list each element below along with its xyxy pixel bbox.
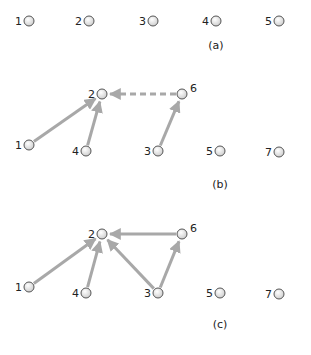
node-7 — [274, 147, 284, 157]
node-label-7: 7 — [265, 146, 272, 159]
node-label-1: 1 — [15, 281, 22, 294]
node-4 — [81, 288, 91, 298]
edge-3-to-2-arrow — [108, 240, 154, 289]
panel-a: 12345(a) — [15, 15, 284, 52]
node-3 — [153, 146, 163, 156]
node-label-7: 7 — [265, 288, 272, 301]
node-2 — [84, 16, 94, 26]
node-label-4: 4 — [202, 15, 209, 28]
node-2 — [97, 229, 107, 239]
graph-diagram: 12345(a)2614357(b)2614357(c) — [0, 0, 311, 355]
node-label-6: 6 — [190, 82, 197, 95]
node-1 — [24, 282, 34, 292]
edge-4-to-2-arrow — [88, 242, 100, 287]
node-4 — [81, 146, 91, 156]
edge-4-to-2-arrow — [88, 102, 100, 146]
node-2 — [97, 89, 107, 99]
node-label-6: 6 — [190, 222, 197, 235]
node-6 — [177, 89, 187, 99]
panel-caption: (b) — [212, 178, 228, 191]
edge-3-to-6-arrow — [160, 241, 179, 287]
node-label-5: 5 — [265, 15, 272, 28]
edge-1-to-2-arrow — [34, 99, 96, 142]
node-label-3: 3 — [144, 145, 151, 158]
node-6 — [177, 229, 187, 239]
panel-b: 2614357(b) — [15, 82, 284, 191]
node-label-3: 3 — [139, 15, 146, 28]
node-5 — [274, 16, 284, 26]
node-1 — [24, 16, 34, 26]
node-label-4: 4 — [72, 287, 79, 300]
node-3 — [153, 288, 163, 298]
node-label-1: 1 — [15, 15, 22, 28]
node-3 — [148, 16, 158, 26]
edge-3-to-6-arrow — [160, 101, 179, 145]
node-label-5: 5 — [206, 145, 213, 158]
node-label-3: 3 — [144, 287, 151, 300]
node-5 — [215, 288, 225, 298]
node-label-2: 2 — [88, 88, 95, 101]
panel-caption: (c) — [213, 318, 228, 331]
node-label-1: 1 — [15, 139, 22, 152]
node-4 — [211, 16, 221, 26]
edge-1-to-2-arrow — [34, 239, 96, 284]
node-label-4: 4 — [72, 145, 79, 158]
panel-caption: (a) — [208, 39, 223, 52]
node-label-2: 2 — [75, 15, 82, 28]
node-5 — [215, 146, 225, 156]
node-1 — [24, 140, 34, 150]
panel-c: 2614357(c) — [15, 222, 284, 331]
node-label-2: 2 — [88, 228, 95, 241]
node-7 — [274, 289, 284, 299]
node-label-5: 5 — [206, 287, 213, 300]
